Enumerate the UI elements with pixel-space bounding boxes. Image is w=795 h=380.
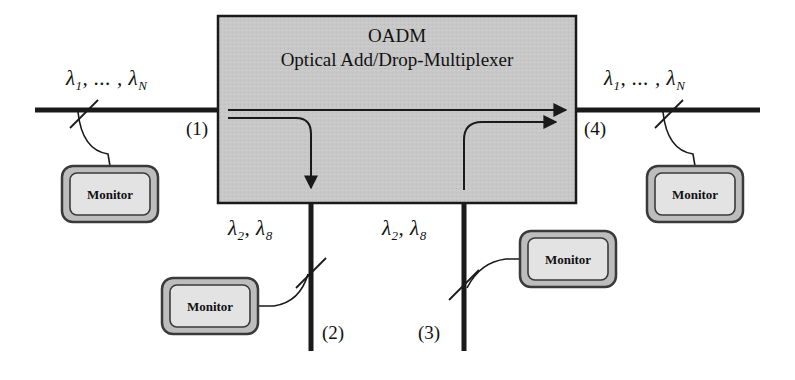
label-right-wavelengths: λ1, ... , λN: [604, 66, 685, 94]
tap-mark-output: [655, 100, 683, 128]
label-left-wavelengths: λ1, ... , λN: [66, 66, 147, 94]
monitor-lead-input: [78, 112, 110, 166]
oadm-title-group: OADM Optical Add/Drop-Multiplexer: [218, 24, 576, 73]
monitor-add-label: Monitor: [536, 252, 600, 268]
monitor-lead-drop: [258, 274, 308, 306]
tap-mark-input: [70, 100, 98, 128]
oadm-diagram: OADM Optical Add/Drop-Multiplexer λ1, ..…: [0, 0, 795, 380]
port-2-label: (2): [322, 322, 344, 344]
oadm-title: OADM: [218, 24, 576, 48]
label-drop-wavelengths: λ2, λ8: [228, 216, 273, 244]
monitor-drop-label: Monitor: [178, 299, 242, 315]
monitor-output-label: Monitor: [663, 187, 727, 203]
port-1-label: (1): [186, 118, 208, 140]
monitor-input-label: Monitor: [78, 187, 142, 203]
label-add-wavelengths: λ2, λ8: [382, 216, 427, 244]
oadm-subtitle: Optical Add/Drop-Multiplexer: [218, 48, 576, 72]
port-3-label: (3): [418, 322, 440, 344]
port-4-label: (4): [584, 118, 606, 140]
monitor-lead-output: [663, 112, 695, 166]
